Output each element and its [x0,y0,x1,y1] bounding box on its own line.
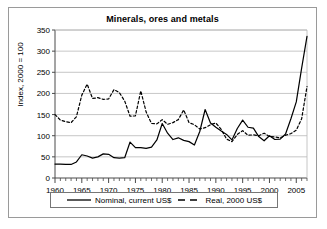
legend-item-real: Real, 2000 US$ [177,196,262,205]
svg-text:0: 0 [46,174,51,183]
chart-container: Minerals, ores and metals Index, 2000 = … [8,7,317,218]
legend-dashed-line-icon [177,196,203,204]
series-line-real [55,84,307,142]
legend-label-nominal: Nominal, current US$ [95,196,171,205]
svg-text:350: 350 [37,26,51,35]
series-line-nominal [55,36,307,164]
axis-lines [55,30,307,178]
data-series [55,36,307,164]
svg-text:250: 250 [37,68,51,77]
x-axis-ticks [55,178,307,183]
svg-text:2005: 2005 [287,186,305,195]
y-tick-labels: 050100150200250300350 [37,26,51,183]
legend-item-nominal: Nominal, current US$ [66,196,171,205]
svg-text:300: 300 [37,47,51,56]
svg-text:200: 200 [37,89,51,98]
legend-solid-line-icon [66,196,92,204]
chart-legend: Nominal, current US$ Real, 2000 US$ [50,192,278,208]
gridlines [55,30,307,157]
plot-area: 050100150200250300350 196019651970197519… [9,8,316,217]
svg-text:100: 100 [37,132,51,141]
legend-label-real: Real, 2000 US$ [206,196,262,205]
svg-text:150: 150 [37,111,51,120]
svg-text:50: 50 [41,153,50,162]
